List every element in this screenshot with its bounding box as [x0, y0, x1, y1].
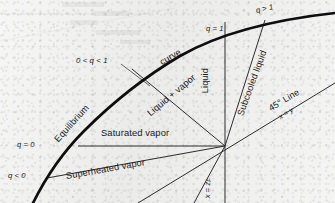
- label-liquid: Liquid: [201, 68, 210, 93]
- label-q-lt-0: q < 0: [8, 172, 26, 180]
- label-q-between: 0 < q < 1: [76, 57, 108, 65]
- feed-comp-eq: =: [203, 186, 212, 195]
- label-q-eq-0: q = 0: [17, 141, 35, 149]
- feed-comp-z: z: [203, 182, 212, 186]
- bleed-through-artifacts: [0, 0, 306, 203]
- leader-line-q-between: [121, 64, 150, 86]
- label-q-eq-1: q = 1: [206, 25, 224, 33]
- q-line-diagram: q < 0 q = 0 0 < q < 1 q = 1 q > 1 Equili…: [0, 0, 335, 203]
- feed-comp-x: x: [203, 194, 212, 198]
- label-feed-composition: x = zF: [204, 179, 212, 199]
- feed-comp-subscript: F: [206, 179, 212, 182]
- q-line-gt-1: [225, 20, 265, 146]
- label-saturated-vapor: Saturated vapor: [101, 128, 169, 137]
